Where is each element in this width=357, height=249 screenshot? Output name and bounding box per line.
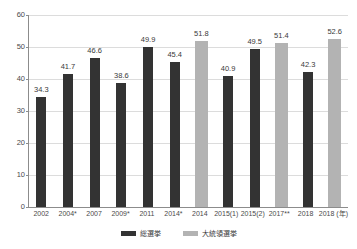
x-axis-label: 2015(1): [213, 210, 239, 217]
bar-value-label: 51.4: [274, 32, 289, 40]
bars-container: 34.341.746.638.649.945.451.840.949.551.4…: [28, 15, 348, 207]
x-axis-label: 2002: [28, 210, 54, 217]
bar-2004-general[interactable]: 41.7: [63, 74, 73, 207]
bar-value-label: 51.8: [194, 30, 209, 38]
x-axis-label: 2014: [187, 210, 213, 217]
bar-value-label: 40.9: [221, 65, 236, 73]
bar-2014-general[interactable]: 45.4: [170, 62, 180, 207]
bar-value-label: 41.7: [61, 63, 76, 71]
x-axis-label: 2014*: [160, 210, 186, 217]
y-tick-label: 50: [3, 43, 25, 51]
y-tick-label: 60: [3, 11, 25, 19]
y-tick-label: 30: [3, 107, 25, 115]
chart-legend: 総選挙大統領選挙: [0, 230, 357, 237]
bar-slot: 51.8: [188, 15, 215, 207]
y-tick-label: 0: [3, 203, 25, 211]
bar-2018-general[interactable]: 42.3: [303, 72, 313, 207]
bar-2017-presidential[interactable]: 51.4: [275, 43, 288, 207]
x-axis-label: 2007: [81, 210, 107, 217]
y-tick-label: 10: [3, 171, 25, 179]
bar-value-label: 49.9: [141, 36, 156, 44]
x-axis-label: 2017**: [266, 210, 292, 217]
bar-value-label: 46.6: [87, 47, 102, 55]
bar-slot: 52.6: [321, 15, 348, 207]
x-axis-label: 2018: [292, 210, 318, 217]
bar-20151-general[interactable]: 40.9: [223, 76, 233, 207]
legend-item[interactable]: 総選挙: [121, 230, 161, 237]
legend-item[interactable]: 大統領選挙: [183, 230, 237, 237]
bar-value-label: 49.5: [247, 38, 262, 46]
bar-2002-general[interactable]: 34.3: [36, 97, 46, 207]
bar-slot: 46.6: [81, 15, 108, 207]
bar-value-label: 45.4: [167, 51, 182, 59]
bar-slot: 42.3: [295, 15, 322, 207]
bar-2007-general[interactable]: 46.6: [90, 58, 100, 207]
bar-slot: 40.9: [215, 15, 242, 207]
x-axis-label: 2009*: [107, 210, 133, 217]
x-axis-labels: 20022004*20072009*20112014*20142015(1)20…: [28, 210, 348, 217]
bar-slot: 51.4: [268, 15, 295, 207]
bar-20152-general[interactable]: 49.5: [250, 49, 260, 207]
bar-value-label: 34.3: [34, 86, 49, 94]
x-axis-label: 2015(2): [240, 210, 266, 217]
x-axis-label: 2018 (年): [319, 210, 348, 217]
legend-swatch: [121, 231, 136, 236]
legend-swatch: [183, 231, 198, 236]
legend-label: 大統領選挙: [202, 230, 237, 237]
bar-value-label: 38.6: [114, 72, 129, 80]
legend-label: 総選挙: [140, 230, 161, 237]
y-tick-label: 20: [3, 139, 25, 147]
y-tick-label: 40: [3, 75, 25, 83]
bar-2009-general[interactable]: 38.6: [116, 83, 126, 207]
bar-value-label: 52.6: [327, 28, 342, 36]
bar-2014-presidential[interactable]: 51.8: [195, 41, 208, 207]
bar-slot: 41.7: [55, 15, 82, 207]
bar-2011-general[interactable]: 49.9: [143, 47, 153, 207]
bar-chart: 34.341.746.638.649.945.451.840.949.551.4…: [0, 0, 357, 249]
bar-slot: 38.6: [108, 15, 135, 207]
x-axis-label: 2004*: [54, 210, 80, 217]
bar-slot: 49.5: [241, 15, 268, 207]
bar-value-label: 42.3: [301, 61, 316, 69]
bar-slot: 45.4: [161, 15, 188, 207]
y-tick-mark: [26, 207, 29, 208]
bar-2018-presidential[interactable]: 52.6: [328, 39, 341, 207]
bar-slot: 34.3: [28, 15, 55, 207]
x-axis-label: 2011: [134, 210, 160, 217]
bar-slot: 49.9: [135, 15, 162, 207]
